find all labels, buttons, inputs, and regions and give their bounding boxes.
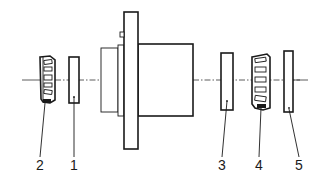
part-label-1: 1: [70, 158, 78, 172]
bearing-part-4: [252, 54, 270, 110]
shim-part-1: [69, 57, 79, 103]
exploded-view-diagram: [0, 0, 323, 187]
shim-part-5: [284, 51, 293, 112]
flanged-housing: [101, 12, 193, 149]
part-label-3: 3: [218, 158, 226, 172]
part-label-5: 5: [295, 158, 303, 172]
part-label-2: 2: [36, 158, 44, 172]
part-label-4: 4: [255, 158, 263, 172]
bearing-part-2: [40, 56, 55, 103]
